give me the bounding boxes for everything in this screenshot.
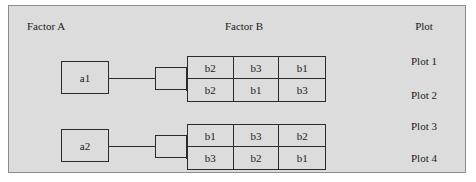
plot-label-2: Plot 2 — [394, 89, 454, 101]
sub-plot-cell: b3 — [188, 147, 234, 169]
column-header-plot: Plot — [394, 20, 454, 32]
whole-plot-box-a1: a1 — [61, 61, 109, 94]
sub-plot-cell: b2 — [188, 57, 234, 79]
sub-plot-grid-1: b2 b3 b1 b2 b1 b3 — [187, 56, 326, 102]
sub-plot-cell: b2 — [188, 79, 234, 101]
plot-label-3: Plot 3 — [394, 120, 454, 132]
split-node-box-2 — [155, 135, 187, 158]
sub-plot-cell: b1 — [188, 125, 234, 147]
connector-line-a1-to-node — [109, 78, 155, 79]
connector-line-a2-to-node — [109, 146, 155, 147]
split-plot-diagram: Factor A Factor B Plot a1 a2 b2 b3 b1 b2… — [8, 5, 466, 173]
sub-plot-cell: b3 — [279, 79, 325, 101]
sub-plot-cell: b1 — [279, 57, 325, 79]
sub-plot-cell: b2 — [279, 125, 325, 147]
column-header-factor-b: Factor B — [169, 20, 319, 32]
sub-plot-grid-2: b1 b3 b2 b3 b2 b1 — [187, 124, 326, 170]
sub-plot-cell: b1 — [279, 147, 325, 169]
split-node-box-1 — [155, 67, 187, 90]
sub-plot-cell: b3 — [234, 125, 280, 147]
plot-label-1: Plot 1 — [394, 55, 454, 67]
sub-plot-cell: b2 — [234, 147, 280, 169]
sub-plot-cell: b1 — [234, 79, 280, 101]
plot-label-4: Plot 4 — [394, 152, 454, 164]
sub-plot-cell: b3 — [234, 57, 280, 79]
whole-plot-box-a2: a2 — [61, 129, 109, 162]
column-header-factor-a: Factor A — [27, 20, 65, 32]
